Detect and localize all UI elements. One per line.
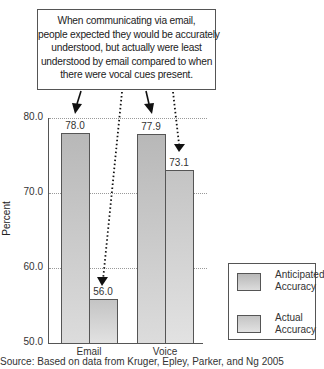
legend-text: Actual <box>275 312 316 324</box>
legend-swatch-anticipated <box>237 273 261 291</box>
arrow-email-actual-icon <box>97 92 122 286</box>
legend-text: Accuracy <box>275 281 324 293</box>
legend-text: Anticipated <box>275 269 324 281</box>
arrow-voice-anticipated-icon <box>144 91 154 114</box>
legend-label-anticipated: Anticipated Accuracy <box>275 269 324 293</box>
legend-label-actual: Actual Accuracy <box>275 312 316 336</box>
source-note: Source: Based on data from Kruger, Epley… <box>0 356 284 367</box>
legend-swatch-actual <box>237 315 261 333</box>
arrow-voice-actual-icon <box>173 92 185 152</box>
arrow-email-anticipated-icon <box>72 91 82 114</box>
legend: Anticipated Accuracy Actual Accuracy <box>228 263 316 340</box>
legend-text: Accuracy <box>275 324 316 336</box>
